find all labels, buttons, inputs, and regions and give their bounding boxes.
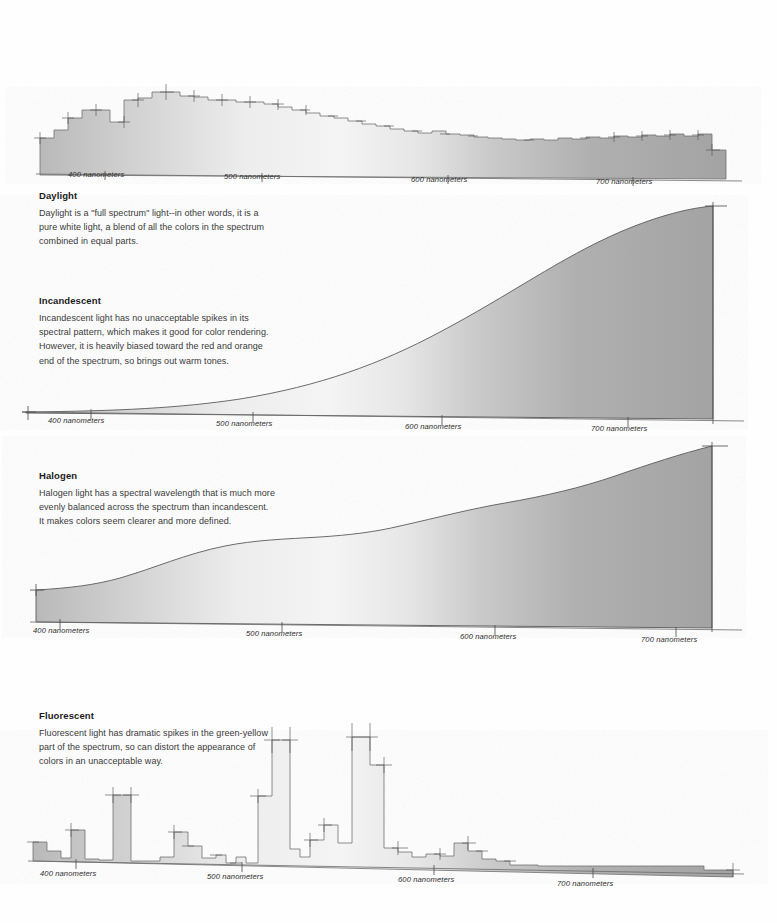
section-halogen: Halogen Halogen light has a spectral wav… <box>39 470 339 529</box>
body-line: Halogen light has a spectral wavelength … <box>39 486 339 500</box>
daylight-area <box>40 92 726 179</box>
body-line: combined in equal parts. <box>39 234 339 248</box>
axis-tick-600: 600 nanometers <box>398 875 454 884</box>
section-incandescent: Incandescent Incandescent light has no u… <box>39 295 339 368</box>
daylight-plot-area <box>34 84 742 186</box>
section-title-daylight: Daylight <box>39 190 339 201</box>
section-title-halogen: Halogen <box>39 470 339 481</box>
section-title-fluorescent: Fluorescent <box>39 710 339 721</box>
section-fluorescent: Fluorescent Fluorescent light has dramat… <box>39 710 339 769</box>
section-body-fluorescent: Fluorescent light has dramatic spikes in… <box>39 726 339 769</box>
axis-tick-400: 400 nanometers <box>40 869 96 878</box>
body-line: However, it is heavily biased toward the… <box>39 339 339 353</box>
body-line: It makes colors seem clearer and more de… <box>39 514 339 528</box>
body-line: Daylight is a "full spectrum" light--in … <box>39 206 339 220</box>
axis-tick-600: 600 nanometers <box>460 632 516 641</box>
body-line: Fluorescent light has dramatic spikes in… <box>39 726 339 740</box>
body-line: evenly balanced across the spectrum than… <box>39 500 339 514</box>
body-line: part of the spectrum, so can distort the… <box>39 740 339 754</box>
axis-tick-400: 400 nanometers <box>68 170 124 179</box>
axis-tick-700: 700 nanometers <box>591 424 647 433</box>
axis-tick-500: 500 nanometers <box>207 872 263 881</box>
body-line: spectral pattern, which makes it good fo… <box>39 325 339 339</box>
axis-tick-500: 500 nanometers <box>224 172 280 181</box>
section-body-halogen: Halogen light has a spectral wavelength … <box>39 486 339 529</box>
section-daylight: Daylight Daylight is a "full spectrum" l… <box>39 190 339 249</box>
axis-tick-600: 600 nanometers <box>405 422 461 431</box>
body-line: end of the spectrum, so brings out warm … <box>39 354 339 368</box>
chart-daylight: 400 nanometers 500 nanometers 600 nanome… <box>0 30 777 180</box>
body-line: Incandescent light has no unacceptable s… <box>39 311 339 325</box>
scanned-page: 400 nanometers 500 nanometers 600 nanome… <box>0 0 777 923</box>
axis-tick-700: 700 nanometers <box>557 879 613 888</box>
axis-tick-500: 500 nanometers <box>216 419 272 428</box>
section-title-incandescent: Incandescent <box>39 295 339 306</box>
axis-tick-600: 600 nanometers <box>411 175 467 184</box>
body-line: pure white light, a blend of all the col… <box>39 220 339 234</box>
axis-tick-700: 700 nanometers <box>641 635 697 644</box>
axis-tick-400: 400 nanometers <box>33 626 89 635</box>
axis-tick-700: 700 nanometers <box>596 177 652 186</box>
section-body-incandescent: Incandescent light has no unacceptable s… <box>39 311 339 368</box>
body-line: colors in an unacceptable way. <box>39 754 339 768</box>
chart-fluorescent: 400 nanometers 500 nanometers 600 nanome… <box>0 665 777 897</box>
section-body-daylight: Daylight is a "full spectrum" light--in … <box>39 206 339 249</box>
axis-tick-500: 500 nanometers <box>246 629 302 638</box>
axis-tick-400: 400 nanometers <box>48 416 104 425</box>
